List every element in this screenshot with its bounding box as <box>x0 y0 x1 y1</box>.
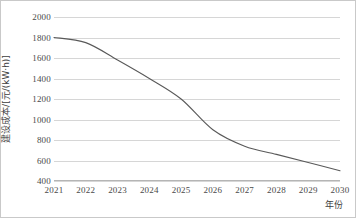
y-axis-tick-labels: 200018001600140012001000800600400 <box>7 17 51 181</box>
y-axis-tick-label: 1400 <box>11 75 51 84</box>
y-axis-tick-label: 800 <box>11 136 51 145</box>
x-axis-title: 年份 <box>325 198 343 211</box>
series-line-chart <box>54 17 340 181</box>
y-axis-tick-label: 1800 <box>11 34 51 43</box>
y-axis-tick-label: 1000 <box>11 116 51 125</box>
y-axis-tick-label: 2000 <box>11 13 51 22</box>
gridline <box>54 181 340 182</box>
y-axis-tick-label: 1600 <box>11 54 51 63</box>
plot-area <box>54 17 340 181</box>
y-axis-tick-label: 600 <box>11 157 51 166</box>
y-axis-tick-label: 1200 <box>11 95 51 104</box>
x-axis-tick-labels: 2021202220232024202520262027202820292030 <box>54 185 340 199</box>
chart-container: 建设成本/[元/(kW·h)] 200018001600140012001000… <box>0 0 356 218</box>
series-line-construction-cost <box>54 38 340 171</box>
x-axis-tick-label: 2030 <box>320 185 358 195</box>
